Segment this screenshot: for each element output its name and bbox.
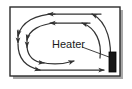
heater-convection-figure: Heater <box>0 0 132 89</box>
heater-element <box>109 52 116 72</box>
heater-label: Heater <box>52 38 85 50</box>
diagram-canvas: Heater <box>0 0 132 89</box>
